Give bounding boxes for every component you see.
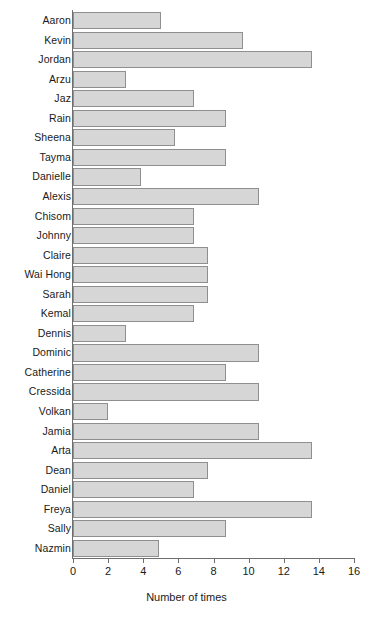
x-axis-tick-mark: [143, 559, 144, 563]
bar: [73, 501, 312, 518]
bar: [73, 90, 194, 107]
bar-row: Daniel: [0, 480, 373, 500]
category-label: Dominic: [32, 343, 71, 363]
category-label: Wai Hong: [24, 265, 71, 285]
category-label: Danielle: [32, 167, 71, 187]
category-label: Chisom: [35, 207, 71, 227]
category-label: Johnny: [37, 226, 71, 246]
category-label: Freya: [44, 500, 71, 520]
bar: [73, 325, 126, 342]
bar: [73, 51, 312, 68]
bar-row: Arta: [0, 441, 373, 461]
bar: [73, 12, 161, 29]
bar: [73, 247, 208, 264]
category-label: Jordan: [38, 50, 71, 70]
bar: [73, 423, 259, 440]
x-axis-tick-mark: [284, 559, 285, 563]
category-label: Kemal: [41, 304, 71, 324]
bar-row: Catherine: [0, 363, 373, 383]
bar-row: Arzu: [0, 70, 373, 90]
x-axis-tick-label: 10: [243, 565, 255, 577]
bar: [73, 344, 259, 361]
x-axis-tick-mark: [108, 559, 109, 563]
bar: [73, 168, 141, 185]
category-label: Dean: [45, 461, 71, 481]
plot-area: AaronKevinJordanArzuJazRainSheenaTaymaDa…: [0, 0, 373, 568]
category-label: Jaz: [54, 89, 71, 109]
category-label: Rain: [49, 109, 71, 129]
category-label: Cressida: [29, 382, 71, 402]
bar-row: Kemal: [0, 304, 373, 324]
bar-row: Sheena: [0, 128, 373, 148]
category-label: Arta: [51, 441, 71, 461]
bar-row: Dominic: [0, 343, 373, 363]
bar-row: Jamia: [0, 422, 373, 442]
bar: [73, 149, 226, 166]
x-axis-tick-label: 6: [175, 565, 181, 577]
bar-row: Kevin: [0, 31, 373, 51]
x-axis-tick-mark: [178, 559, 179, 563]
category-label: Sheena: [34, 128, 71, 148]
category-label: Sarah: [42, 285, 71, 305]
x-axis-tick-label: 8: [210, 565, 216, 577]
bar-row: Sarah: [0, 285, 373, 305]
category-label: Alexis: [42, 187, 71, 207]
category-label: Jamia: [42, 422, 71, 442]
bar-row: Aaron: [0, 11, 373, 31]
x-axis-tick-mark: [249, 559, 250, 563]
bar-row: Wai Hong: [0, 265, 373, 285]
x-axis-tick-label: 4: [140, 565, 146, 577]
bar-row: Claire: [0, 246, 373, 266]
category-label: Nazmin: [35, 539, 71, 559]
bar: [73, 442, 312, 459]
bar: [73, 71, 126, 88]
bar-row: Nazmin: [0, 539, 373, 559]
bar-row: Dennis: [0, 324, 373, 344]
bar: [73, 364, 226, 381]
bar: [73, 188, 259, 205]
x-axis-tick-label: 12: [278, 565, 290, 577]
bar: [73, 227, 194, 244]
bar: [73, 462, 208, 479]
bar: [73, 403, 108, 420]
bar-row: Dean: [0, 461, 373, 481]
bar-row: Freya: [0, 500, 373, 520]
bar: [73, 305, 194, 322]
bar: [73, 32, 243, 49]
category-label: Daniel: [41, 480, 71, 500]
bar-row: Danielle: [0, 167, 373, 187]
bar: [73, 286, 208, 303]
bar-row: Johnny: [0, 226, 373, 246]
category-label: Sally: [48, 519, 71, 539]
x-axis-tick-label: 0: [70, 565, 76, 577]
category-label: Claire: [43, 246, 71, 266]
y-axis-line: [72, 10, 73, 558]
bar: [73, 129, 175, 146]
x-axis-tick-label: 14: [313, 565, 325, 577]
category-label: Kevin: [44, 31, 71, 51]
bar-row: Jaz: [0, 89, 373, 109]
bar: [73, 110, 226, 127]
bar: [73, 208, 194, 225]
bar-row: Volkan: [0, 402, 373, 422]
bar-row: Jordan: [0, 50, 373, 70]
category-label: Tayma: [40, 148, 71, 168]
bar-row: Rain: [0, 109, 373, 129]
category-label: Catherine: [25, 363, 71, 383]
bar: [73, 481, 194, 498]
bar: [73, 520, 226, 537]
bar: [73, 540, 159, 557]
bar-chart: AaronKevinJordanArzuJazRainSheenaTaymaDa…: [0, 0, 373, 624]
bar-row: Sally: [0, 519, 373, 539]
bar: [73, 383, 259, 400]
category-label: Aaron: [42, 11, 71, 31]
x-axis-tick-mark: [354, 559, 355, 563]
x-axis-title: Number of times: [0, 591, 373, 603]
bar: [73, 266, 208, 283]
x-axis-tick-mark: [214, 559, 215, 563]
category-label: Dennis: [38, 324, 71, 344]
x-axis-tick-label: 16: [348, 565, 360, 577]
x-axis-tick-label: 2: [105, 565, 111, 577]
category-label: Arzu: [49, 70, 71, 90]
x-axis-tick-mark: [73, 559, 74, 563]
